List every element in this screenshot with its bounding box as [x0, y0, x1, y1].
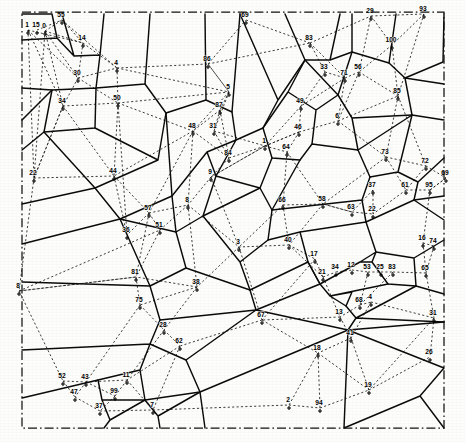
site-label: 49: [296, 97, 304, 104]
site-label: 34: [331, 263, 339, 270]
site-label: 41: [346, 329, 354, 336]
site-label: 37: [95, 402, 103, 409]
site-label: 9: [208, 168, 212, 175]
site-label: 100: [385, 36, 396, 43]
site-label: 68: [355, 296, 363, 303]
site-label: 31: [429, 309, 437, 316]
site-label: 85: [393, 87, 401, 94]
site-label: 8: [16, 282, 20, 289]
site-label: 38: [192, 278, 200, 285]
site-label: 73: [381, 148, 389, 155]
site-label: 37: [368, 181, 376, 188]
site-label: 25: [376, 263, 384, 270]
site-label: 72: [421, 157, 429, 164]
site-label: 22: [29, 169, 37, 176]
site-label: 19: [364, 381, 372, 388]
site-label: 7: [150, 401, 154, 408]
site-label: 46: [294, 123, 302, 130]
site-label: 74: [429, 237, 437, 244]
site-label: 4: [114, 59, 118, 66]
site-label: 21: [318, 268, 326, 275]
site-label: 34: [58, 97, 66, 104]
site-label: 15: [32, 21, 40, 28]
site-label: 1: [25, 21, 29, 28]
site-label: 81: [131, 268, 139, 275]
site-label: 75: [135, 296, 143, 303]
site-label: 22: [368, 205, 376, 212]
site-label: 11: [123, 371, 130, 378]
site-label: 33: [320, 63, 328, 70]
site-label: 95: [425, 181, 433, 188]
site-label: 31: [209, 122, 217, 129]
site-label: 87: [215, 101, 223, 108]
site-label: 6: [335, 112, 339, 119]
site-label: 57: [144, 204, 152, 211]
site-label: 48: [188, 122, 196, 129]
site-label: 61: [401, 181, 409, 188]
site-label: 47: [70, 388, 78, 395]
site-label: 63: [347, 203, 355, 210]
site-label: 5: [226, 83, 230, 90]
site-label: 67: [257, 311, 265, 318]
site-label: 8: [185, 196, 189, 203]
site-label: 71: [340, 69, 348, 76]
site-label: 86: [203, 55, 211, 62]
site-label: 84: [224, 149, 232, 156]
site-label: 83: [388, 263, 396, 270]
site-label: 94: [315, 399, 323, 406]
site-label: 44: [109, 167, 117, 174]
site-label: 83: [305, 34, 313, 41]
site-label: 26: [425, 348, 433, 355]
site-label: 13: [335, 308, 343, 315]
voronoi-edge-layer: [22, 14, 444, 428]
site-label: 18: [313, 344, 321, 351]
site-label: 50: [113, 94, 121, 101]
site-label: 66: [278, 196, 286, 203]
site-label: 56: [354, 63, 362, 70]
site-label: 65: [421, 264, 429, 271]
site-label: 62: [175, 337, 183, 344]
site-label: 0: [42, 22, 46, 29]
site-label: 93: [419, 5, 427, 12]
site-label: 36: [122, 226, 130, 233]
site-label: 14: [78, 34, 86, 41]
figure-border: [22, 12, 444, 428]
site-label: 53: [363, 263, 371, 270]
site-label: 52: [58, 372, 66, 379]
site-label: 1: [262, 137, 266, 144]
site-label: 2: [286, 396, 290, 403]
site-label: 3: [236, 238, 240, 245]
site-label: 40: [284, 236, 292, 243]
site-label: 64: [282, 143, 290, 150]
site-label: 69: [441, 169, 449, 176]
site-label: 12: [347, 261, 355, 268]
site-label: 51: [155, 221, 163, 228]
site-label: 43: [81, 373, 89, 380]
site-label: 28: [159, 321, 167, 328]
voronoi-diagram-canvas: 1150551430434508658748318492244857365136…: [0, 0, 465, 442]
site-marker-layer: [17, 15, 448, 416]
site-label: 17: [310, 250, 318, 257]
site-label: 99: [110, 387, 118, 394]
site-label: 4: [368, 293, 372, 300]
delaunay-edge-layer: [19, 14, 446, 411]
site-label: 16: [418, 234, 426, 241]
voronoi-figure: 1150551430434508658748318492244857365136…: [0, 0, 465, 442]
site-label: 30: [73, 69, 81, 76]
site-label: 58: [318, 195, 326, 202]
